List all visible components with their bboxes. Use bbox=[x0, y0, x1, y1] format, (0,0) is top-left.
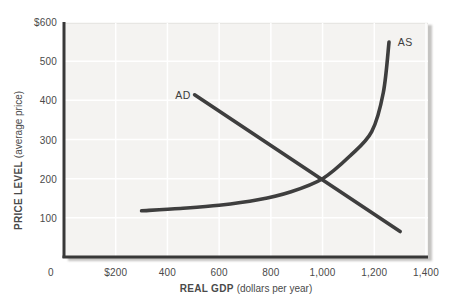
x-axis-title-main: REAL GDP bbox=[180, 283, 234, 294]
chart-canvas bbox=[0, 0, 455, 306]
x-axis-title-sub: (dollars per year) bbox=[237, 283, 313, 294]
x-tick-label: 0 bbox=[48, 267, 54, 278]
ad-curve bbox=[195, 95, 401, 232]
x-axis-title: REAL GDP(dollars per year) bbox=[180, 283, 312, 294]
x-tick-label: 1,200 bbox=[361, 267, 387, 278]
x-tick-label: 1,400 bbox=[413, 267, 439, 278]
y-tick-label: 300 bbox=[1, 134, 57, 145]
y-tick-label: 400 bbox=[1, 95, 57, 106]
as-curve bbox=[142, 42, 389, 211]
as-ad-supply-demand-chart: PRICE LEVEL(average price) REAL GDP(doll… bbox=[0, 0, 455, 306]
x-tick-label: $200 bbox=[104, 267, 127, 278]
x-tick-label: 400 bbox=[159, 267, 176, 278]
y-tick-label: $600 bbox=[1, 17, 57, 28]
y-tick-label: 200 bbox=[1, 173, 57, 184]
y-tick-label: 500 bbox=[1, 56, 57, 67]
ad-curve-label: AD bbox=[175, 89, 191, 101]
y-axis-title: PRICE LEVEL(average price) bbox=[13, 41, 24, 281]
y-tick-label: 100 bbox=[1, 212, 57, 223]
x-tick-label: 800 bbox=[262, 267, 279, 278]
as-curve-label: AS bbox=[398, 36, 413, 48]
x-tick-label: 600 bbox=[210, 267, 227, 278]
x-tick-label: 1,000 bbox=[310, 267, 336, 278]
